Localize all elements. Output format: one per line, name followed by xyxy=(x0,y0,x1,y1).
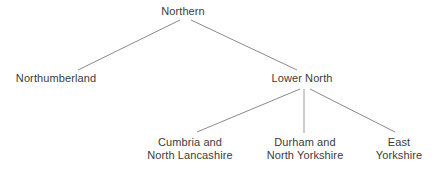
node-lower-north: Lower North xyxy=(271,72,332,85)
node-northumberland: Northumberland xyxy=(16,72,96,85)
node-east-yorkshire-line-1: East xyxy=(376,136,422,149)
node-east-yorkshire-line-2: Yorkshire xyxy=(376,149,422,162)
edge-lower-north-to-cumbria xyxy=(197,89,300,132)
node-durham-line-2: North Yorkshire xyxy=(267,149,344,162)
node-cumbria-line-2: North Lancashire xyxy=(147,149,232,162)
edge-northern-to-lower-north xyxy=(191,20,297,70)
node-northern: Northern xyxy=(161,5,205,18)
node-durham-and-north-yorkshire: Durham and North Yorkshire xyxy=(267,136,344,162)
node-cumbria-line-1: Cumbria and xyxy=(147,136,232,149)
node-durham-line-1: Durham and xyxy=(267,136,344,149)
node-northern-line-1: Northern xyxy=(161,5,205,18)
hierarchy-diagram: Northern Northumberland Lower North Cumb… xyxy=(0,0,435,174)
node-east-yorkshire: East Yorkshire xyxy=(376,136,422,162)
edge-lower-north-to-east-yorkshire xyxy=(310,89,395,132)
node-northumberland-line-1: Northumberland xyxy=(16,72,96,85)
node-cumbria-and-north-lancashire: Cumbria and North Lancashire xyxy=(147,136,232,162)
node-lower-north-line-1: Lower North xyxy=(271,72,332,85)
edge-northern-to-northumberland xyxy=(78,20,180,70)
